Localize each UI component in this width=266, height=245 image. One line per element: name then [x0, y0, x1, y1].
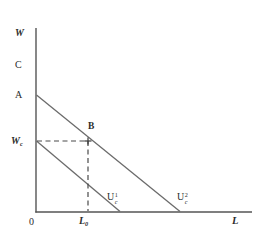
plot-canvas [0, 0, 266, 245]
curve-label-uc1-superscript: 1 [115, 192, 118, 198]
curve-label-uc1: U1c [107, 192, 114, 202]
point-b-label: B [88, 122, 94, 132]
x-axis-mark-l0-subscript: 0 [85, 220, 88, 227]
curve-label-uc1-subscript: c [115, 199, 118, 205]
y-axis-mark-a: A [15, 90, 22, 100]
economics-figure: W C A Wc B 0 L0 L U1c U2c [0, 0, 266, 245]
y-axis-mark-wc: Wc [11, 136, 23, 146]
y-axis-mark-wc-base: W [11, 135, 20, 146]
y-axis-label: W [15, 28, 24, 38]
y-axis-mark-c: C [15, 60, 22, 70]
curve-label-uc2-subscript: c [185, 199, 188, 205]
curve-label-uc2-base: U [177, 191, 184, 202]
curve-label-uc2: U2c [177, 192, 184, 202]
y-axis-mark-wc-subscript: c [20, 140, 23, 147]
x-axis-label: L [232, 216, 238, 227]
x-axis-mark-l0: L0 [79, 216, 88, 226]
curve-label-uc2-superscript: 2 [185, 192, 188, 198]
origin-label: 0 [29, 217, 34, 227]
curve-label-uc1-base: U [107, 191, 114, 202]
